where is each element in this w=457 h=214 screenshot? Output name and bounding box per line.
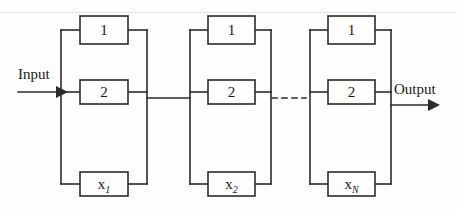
block-diagram-figure: Input Output 1 2 x1 1 2 x2 1 2 xN [0, 0, 457, 214]
stage-n-block-x-subscript: N [352, 184, 359, 195]
stage-n-blocks [328, 16, 375, 196]
output-label: Output [394, 82, 436, 97]
stage-1-wiring [61, 30, 147, 184]
stage-n-wiring [310, 30, 391, 184]
stage-2-block-x-base: x [225, 176, 233, 192]
stage-n-block-1-label: 1 [328, 23, 375, 38]
stage-2-blocks [208, 16, 255, 196]
stage-2-block-1-label: 1 [208, 23, 255, 38]
stage-n-block-x-base: x [344, 176, 352, 192]
stage-2-block-2-label: 2 [208, 85, 255, 100]
stage-1-blocks [80, 16, 128, 196]
stage-n-block-2-label: 2 [328, 85, 375, 100]
stage-1-block-1-label: 1 [80, 23, 128, 38]
stage-2-block-x-label: x2 [208, 177, 255, 195]
stage-2-block-x-subscript: 2 [233, 184, 238, 195]
input-label: Input [18, 67, 50, 82]
stage-1-block-2-label: 2 [80, 85, 128, 100]
output-arrow [391, 99, 440, 111]
stage-1-block-x-subscript: 1 [105, 184, 110, 195]
stage-2-wiring [190, 30, 271, 184]
stage-n-block-x-label: xN [328, 177, 375, 195]
stage-1-block-x-label: x1 [80, 177, 128, 195]
